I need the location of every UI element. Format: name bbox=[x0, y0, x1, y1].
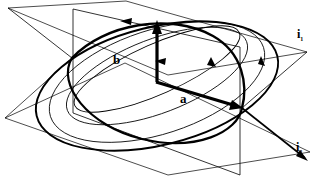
vector-a-shaft bbox=[156, 82, 233, 105]
vector-a bbox=[156, 82, 243, 110]
axis-line-upper bbox=[242, 52, 307, 108]
vector-a-label: a bbox=[180, 92, 187, 105]
axis-label-i-lower-subscript: 2 bbox=[299, 149, 302, 155]
figure-canvas: b a i1 i2 bbox=[0, 0, 314, 179]
node-connector-lowerleft bbox=[5, 58, 72, 118]
vector-b-label: b bbox=[113, 53, 120, 66]
orbit-arrow-mid-icon bbox=[207, 57, 216, 67]
axis-label-i-upper-subscript: 1 bbox=[300, 36, 303, 42]
node-connector-upperleft bbox=[8, 8, 72, 58]
node-left bbox=[71, 57, 74, 60]
orbit-arrow-top-icon bbox=[120, 18, 132, 25]
vector-plane-diagram bbox=[0, 0, 314, 179]
node-right bbox=[241, 107, 244, 110]
axis-label-i-upper: i1 bbox=[297, 28, 303, 42]
axis-label-i-lower: i2 bbox=[296, 141, 302, 155]
